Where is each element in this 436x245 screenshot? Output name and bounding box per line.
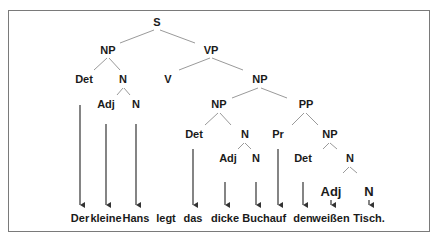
word-den: den (293, 212, 313, 224)
tree-nodes: S NP VP Det N V NP Adj N NP PP Det N Pr … (75, 16, 374, 199)
word-kleine: kleine (90, 212, 121, 224)
word-buch: Buch (242, 212, 270, 224)
node-vp: VP (204, 44, 219, 56)
word-tisch: Tisch. (353, 212, 385, 224)
node-n-2: N (241, 128, 249, 140)
node-det-2: Det (185, 128, 203, 140)
node-det-3: Det (294, 152, 312, 164)
node-det-1: Det (75, 73, 93, 85)
node-adj-1: Adj (97, 98, 115, 110)
node-n-1: N (119, 73, 127, 85)
node-adj-3: Adj (321, 184, 342, 199)
word-auf: auf (270, 212, 287, 224)
syntax-tree: S NP VP Det N V NP Adj N NP PP Det N Pr … (0, 0, 436, 245)
node-n-1b: N (132, 98, 140, 110)
word-dicke: dicke (211, 212, 239, 224)
node-np-4: NP (322, 128, 337, 140)
word-hans: Hans (123, 212, 150, 224)
node-pp: PP (299, 98, 314, 110)
word-der: Der (71, 212, 90, 224)
word-weissen: weißen (311, 212, 350, 224)
node-adj-2: Adj (219, 152, 237, 164)
node-np-object: NP (252, 73, 267, 85)
sentence-words: Der kleine Hans legt das dicke Buch auf … (71, 212, 385, 224)
word-legt: legt (156, 212, 176, 224)
word-das: das (184, 212, 203, 224)
node-pr: Pr (272, 128, 284, 140)
node-np-3: NP (211, 98, 226, 110)
node-s: S (153, 16, 160, 28)
node-n-3: N (346, 152, 354, 164)
node-v: V (164, 73, 172, 85)
node-np-subject: NP (100, 44, 115, 56)
node-n-2b: N (252, 152, 260, 164)
node-n-3b: N (364, 184, 373, 199)
